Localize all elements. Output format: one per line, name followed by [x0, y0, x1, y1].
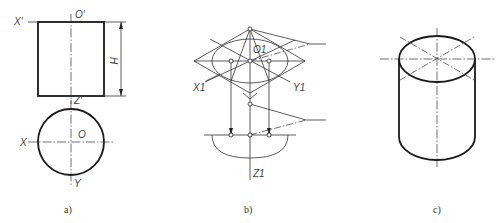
upper-apex-line-top — [250, 29, 310, 44]
panel-b-construction: O1 X1 Y1 Z1 b) — [192, 27, 326, 216]
point-left — [229, 59, 233, 63]
label-x1: X1 — [192, 82, 205, 93]
construction-line-right — [250, 29, 269, 81]
point-bottom-left — [229, 133, 233, 137]
label-o: O — [78, 129, 86, 140]
label-y: Y — [74, 178, 82, 189]
caption-c: c) — [433, 204, 441, 216]
label-height: H — [108, 57, 119, 65]
caption-b: b) — [244, 204, 252, 216]
label-y1: Y1 — [293, 82, 305, 93]
caption-a: a) — [64, 204, 72, 216]
x1-axis-extension — [206, 74, 220, 81]
lower-apex-line-top — [250, 104, 306, 120]
point-right — [267, 59, 271, 63]
point-bottom-center — [248, 133, 252, 137]
cylinder-isometric-drawing: X' O' Z' H X O Y a) — [0, 0, 496, 223]
point-center-o1 — [248, 59, 252, 63]
dim-arrow-bottom-icon — [119, 89, 123, 96]
label-z-prime: Z' — [73, 95, 83, 106]
lower-apex-line-bottom — [250, 120, 306, 135]
point-top-vertex — [248, 27, 252, 31]
label-x: X — [19, 137, 27, 148]
label-o1: O1 — [253, 44, 266, 55]
label-x-prime: X' — [13, 16, 24, 27]
panel-c-isometric-cylinder: c) — [380, 28, 494, 216]
label-z1: Z1 — [252, 168, 265, 179]
dim-arrow-top-icon — [119, 22, 123, 29]
point-lower-axis — [248, 102, 252, 106]
panel-a-orthographic-views: X' O' Z' H X O Y a) — [13, 9, 126, 216]
label-o-prime: O' — [75, 9, 86, 20]
point-bottom-right — [267, 133, 271, 137]
